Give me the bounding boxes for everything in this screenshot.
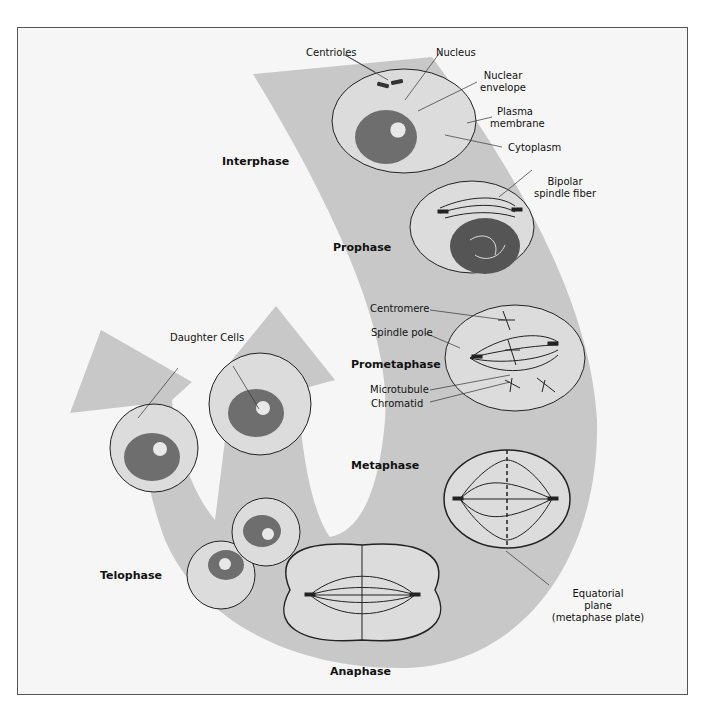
prophase-cell: [410, 181, 534, 274]
label-chromatid: Chromatid: [371, 398, 423, 410]
prometaphase-cell: [445, 305, 585, 411]
phase-anaphase: Anaphase: [330, 665, 391, 678]
label-plasma-membrane: Plasma membrane: [490, 106, 540, 130]
label-bipolar-spindle-fiber: Bipolar spindle fiber: [530, 176, 600, 200]
phase-telophase: Telophase: [100, 569, 162, 582]
label-nucleus: Nucleus: [436, 47, 476, 59]
anaphase-cell: [284, 544, 441, 641]
phase-prophase: Prophase: [333, 241, 391, 254]
label-spindle-pole: Spindle pole: [371, 327, 433, 339]
label-centromere: Centromere: [370, 303, 429, 315]
label-equatorial-plane: Equatorial plane (metaphase plate): [548, 588, 648, 624]
label-microtubule: Microtubule: [370, 384, 429, 396]
label-daughter-cells: Daughter Cells: [170, 332, 244, 344]
label-nuclear-envelope: Nuclear envelope: [478, 70, 528, 94]
label-cytoplasm: Cytoplasm: [508, 142, 561, 154]
label-centrioles: Centrioles: [306, 47, 357, 59]
phase-prometaphase: Prometaphase: [351, 358, 441, 371]
interphase-cell: [332, 69, 476, 173]
phase-interphase: Interphase: [222, 155, 289, 168]
phase-metaphase: Metaphase: [351, 459, 419, 472]
metaphase-cell: [444, 450, 570, 548]
